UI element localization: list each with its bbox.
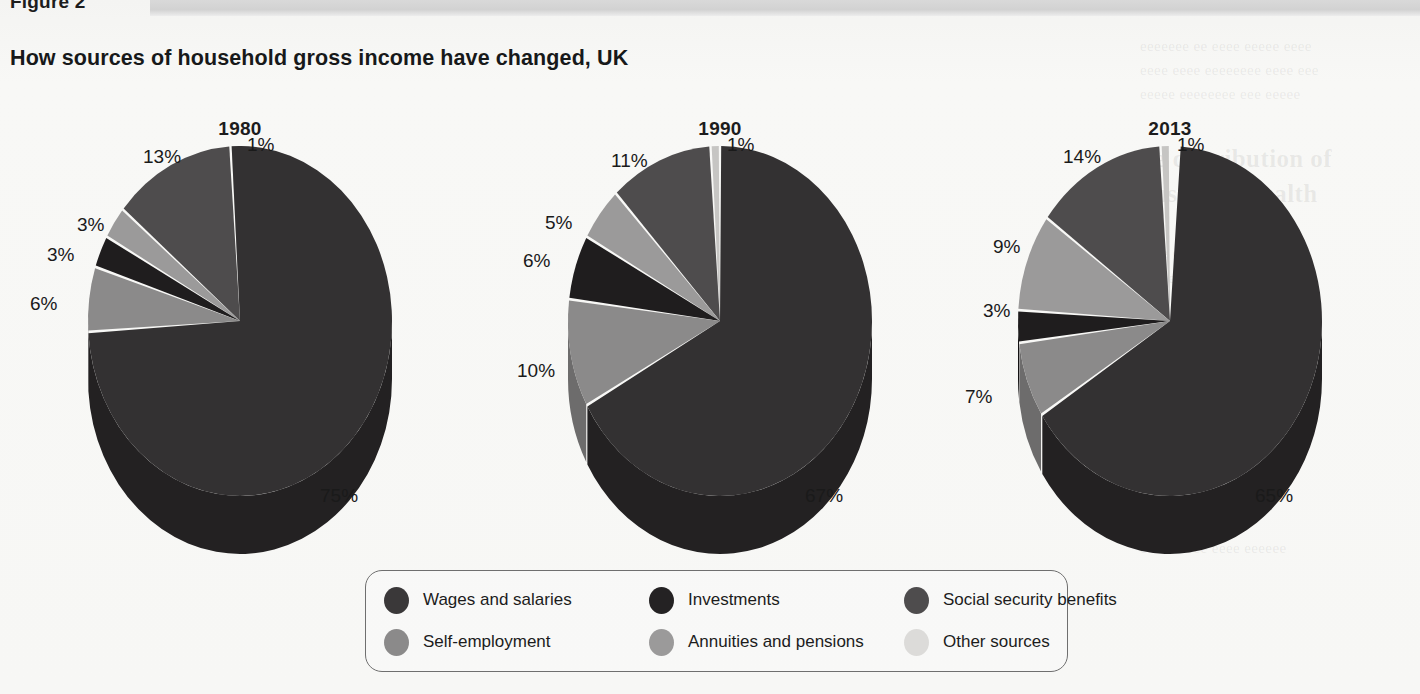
page-title: How sources of household gross income ha… [10,46,628,71]
pie-year-label-2013: 2013 [955,118,1385,140]
slice-label-annuities-1990: 5% [545,212,572,234]
slice-label-selfemp-1990: 10% [517,360,555,382]
legend-label-annuities: Annuities and pensions [688,632,864,652]
legend-item-social-security[interactable]: Social security benefits [904,587,1117,614]
legend-item-wages[interactable]: Wages and salaries [384,587,649,614]
legend-item-investments[interactable]: Investments [649,587,904,614]
slice-label-social-1980: 13% [143,146,181,168]
legend-grid: Wages and salaries Investments Social se… [366,571,1067,671]
slice-label-other-2013: 1% [1177,134,1204,156]
slice-label-investments-1990: 6% [523,250,550,272]
pie-svg-2013 [955,146,1385,556]
figure-label: Figure 2 [10,0,86,13]
legend-swatch-other-sources-icon [904,629,929,656]
legend-label-social-security: Social security benefits [943,590,1117,610]
slice-label-wages-1980: 75% [320,485,358,507]
bleed-text: eeeee eeeeeeee eee eeeee [1140,86,1301,103]
slice-label-other-1990: 1% [727,134,754,156]
legend-swatch-self-employment-icon [384,629,409,656]
pie-year-label-1990: 1990 [505,118,935,140]
legend-label-other-sources: Other sources [943,632,1050,652]
legend-swatch-social-security-icon [904,587,929,614]
slice-label-social-1990: 11% [611,150,648,172]
legend-label-self-employment: Self-employment [423,632,551,652]
pie-stage-1990 [505,146,935,556]
slice-label-investments-1980: 3% [47,244,74,266]
slice-label-social-2013: 14% [1063,146,1101,168]
pie-year-label-1980: 1980 [25,118,455,140]
slice-label-annuities-1980: 3% [77,214,104,236]
pie-stage-1980 [25,146,455,556]
slice-label-investments-2013: 3% [983,300,1010,322]
slice-label-other-1980: 1% [247,134,274,156]
legend-box: Wages and salaries Investments Social se… [365,570,1068,672]
slice-label-selfemp-2013: 7% [965,386,992,408]
slice-label-wages-1990: 67% [805,485,843,507]
pie-svg-1990 [505,146,935,556]
figure-header-bar [150,0,1420,16]
slice-label-annuities-2013: 9% [993,236,1020,258]
slice-label-selfemp-1980: 6% [30,293,57,315]
legend-swatch-wages-icon [384,587,409,614]
pie-stage-2013 [955,146,1385,556]
pie-svg-1980 [25,146,455,556]
legend-label-wages: Wages and salaries [423,590,572,610]
bleed-text: eeeeeee ee eeee eeeee eeee [1140,38,1312,55]
bleed-text: eeee eeee eeeeeeee eeee eee [1140,62,1319,79]
legend-item-other-sources[interactable]: Other sources [904,629,1117,656]
legend-item-self-employment[interactable]: Self-employment [384,629,649,656]
legend-swatch-annuities-icon [649,629,674,656]
legend-swatch-investments-icon [649,587,674,614]
legend-item-annuities[interactable]: Annuities and pensions [649,629,904,656]
legend-label-investments: Investments [688,590,780,610]
slice-label-wages-2013: 65% [1255,485,1293,507]
